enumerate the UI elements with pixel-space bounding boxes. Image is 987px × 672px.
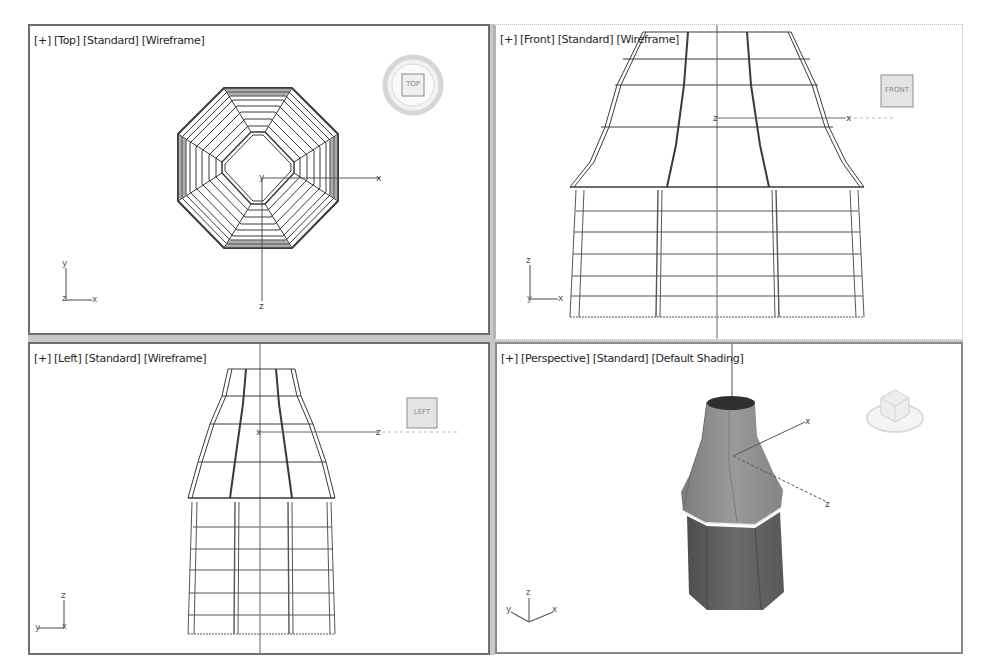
viewport-label: [+] [Front] [Standard] [Wireframe]	[500, 33, 679, 46]
viewport-menu-plus[interactable]: [+]	[501, 352, 518, 365]
viewport-point-of-view-menu[interactable]: [Front]	[520, 33, 554, 46]
viewcube-perspective[interactable]	[863, 380, 927, 438]
viewport-point-of-view-menu[interactable]: [Left]	[54, 352, 81, 365]
viewport-standard-menu[interactable]: [Standard]	[558, 33, 614, 46]
svg-text:z: z	[713, 113, 718, 123]
viewcube-left[interactable]: LEFT	[404, 396, 444, 436]
viewport-top[interactable]: [+] [Top] [Standard] [Wireframe]	[28, 24, 490, 335]
svg-text:y: y	[259, 172, 265, 182]
svg-text:z: z	[259, 301, 264, 311]
viewport-shading-menu[interactable]: [Wireframe]	[142, 34, 205, 47]
viewport-standard-menu[interactable]: [Standard]	[85, 352, 141, 365]
viewport-perspective[interactable]: [+] [Perspective] [Standard] [Default Sh…	[495, 342, 963, 654]
svg-text:x: x	[805, 416, 811, 426]
viewport-point-of-view-menu[interactable]: [Top]	[54, 34, 80, 47]
viewport-shading-menu[interactable]: [Wireframe]	[144, 352, 207, 365]
viewport-point-of-view-menu[interactable]: [Perspective]	[521, 352, 589, 365]
viewport-shading-menu[interactable]: [Default Shading]	[652, 352, 744, 365]
viewport-left[interactable]: [+] [Left] [Standard] [Wireframe]	[28, 342, 490, 655]
viewport-standard-menu[interactable]: [Standard]	[83, 34, 139, 47]
axis-tripod: z y x	[518, 255, 568, 311]
svg-text:x: x	[846, 113, 852, 123]
viewcube-top[interactable]: TOP	[382, 54, 444, 116]
viewport-standard-menu[interactable]: [Standard]	[593, 352, 649, 365]
axis-tripod: z y x	[34, 594, 84, 644]
svg-text:z: z	[825, 499, 830, 509]
viewcube-face-label: LEFT	[404, 408, 440, 416]
left-view-wireframe[interactable]: x z	[30, 344, 490, 655]
viewport-label: [+] [Top] [Standard] [Wireframe]	[34, 34, 204, 47]
viewcube-face-label: TOP	[382, 80, 444, 88]
viewport-label: [+] [Perspective] [Standard] [Default Sh…	[501, 352, 743, 365]
viewport-menu-plus[interactable]: [+]	[34, 34, 51, 47]
viewport-label: [+] [Left] [Standard] [Wireframe]	[34, 352, 206, 365]
axis-tripod: y z x	[503, 594, 563, 644]
axis-tripod: y z x	[58, 260, 108, 310]
svg-text:x: x	[256, 427, 262, 437]
viewport-menu-plus[interactable]: [+]	[500, 33, 517, 46]
svg-text:z: z	[376, 427, 381, 437]
viewcube-front[interactable]: FRONT	[878, 73, 918, 113]
viewport-front[interactable]: [+] [Front] [Standard] [Wireframe]	[493, 24, 963, 340]
viewcube-face-label: FRONT	[878, 86, 916, 94]
viewport-shading-menu[interactable]: [Wireframe]	[616, 33, 679, 46]
svg-text:x: x	[376, 173, 382, 183]
viewport-menu-plus[interactable]: [+]	[34, 352, 51, 365]
